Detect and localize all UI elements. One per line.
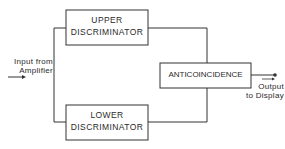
input-line-2: Amplifier <box>6 66 53 75</box>
lower-discriminator-label: LOWER DISCRIMINATOR <box>66 109 148 133</box>
anticoincidence-label: ANTICOINCIDENCE <box>160 69 251 81</box>
output-terminal-dot-icon <box>273 73 277 77</box>
input-arrowhead-icon <box>22 75 26 79</box>
upper-discriminator-label: UPPER DISCRIMINATOR <box>66 14 148 38</box>
output-line-2: to Display <box>240 91 284 100</box>
anti-line-1: ANTICOINCIDENCE <box>160 69 251 81</box>
input-connector <box>54 28 66 122</box>
output-arrowhead-icon <box>272 78 275 81</box>
output-line-1: Output <box>240 82 284 91</box>
upper-line-2: DISCRIMINATOR <box>66 26 148 38</box>
upper-to-anti-connector <box>148 28 207 63</box>
lower-line-1: LOWER <box>66 109 148 121</box>
upper-line-1: UPPER <box>66 14 148 26</box>
input-line-1: Input from <box>6 57 53 66</box>
output-label: Output to Display <box>240 82 284 100</box>
lower-line-2: DISCRIMINATOR <box>66 121 148 133</box>
lower-to-anti-connector <box>148 88 207 122</box>
input-label: Input from Amplifier <box>6 57 53 75</box>
